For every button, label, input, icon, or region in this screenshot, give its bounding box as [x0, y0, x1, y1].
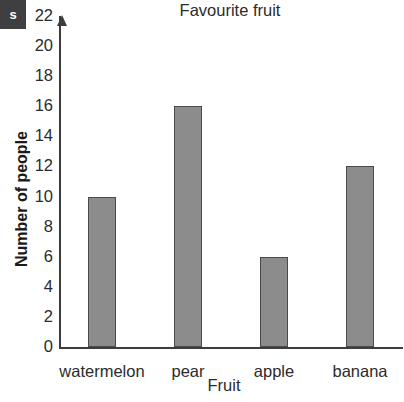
y-tick-label: 10: [23, 188, 53, 205]
y-tick-label: 12: [23, 157, 53, 174]
y-axis-arrow-icon: [57, 15, 67, 26]
y-axis-line: [59, 16, 61, 347]
bar-watermelon: [88, 197, 116, 347]
y-tick-label: 4: [23, 278, 53, 295]
y-tick-label: 20: [23, 37, 53, 54]
y-tick-label: 6: [23, 248, 53, 265]
bar-banana: [346, 166, 374, 347]
y-tick-label: 8: [23, 218, 53, 235]
x-tick-label-banana: banana: [300, 362, 404, 381]
chart-page: s Favourite fruit Number of people Fruit…: [0, 0, 404, 402]
y-tick-label: 16: [23, 97, 53, 114]
y-tick-label: 2: [23, 308, 53, 325]
y-tick-label: 14: [23, 127, 53, 144]
y-tick-label: 22: [23, 7, 53, 24]
y-tick-label: 0: [23, 338, 53, 355]
bar-pear: [174, 106, 202, 347]
y-tick-label: 18: [23, 67, 53, 84]
x-axis-line: [59, 347, 403, 349]
bar-apple: [260, 257, 288, 347]
plot-area: 0246810121416182022 watermelonpearappleb…: [59, 10, 403, 348]
